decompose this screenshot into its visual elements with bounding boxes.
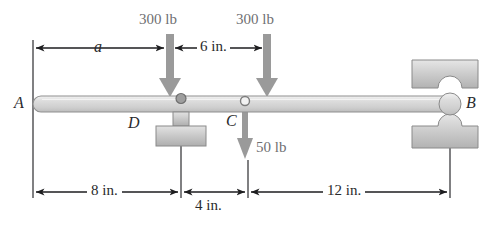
load-arrow-right: [256, 34, 278, 97]
load-label-c: 50 lb: [256, 140, 286, 155]
point-label-A: A: [14, 95, 24, 111]
point-label-D: D: [128, 115, 140, 131]
diagram-canvas: [0, 0, 491, 230]
support-B-lower-block: [412, 114, 478, 148]
load-label-right: 300 lb: [236, 12, 274, 27]
dim-label-6in: 6 in.: [197, 39, 230, 54]
load-arrow-c: [237, 106, 253, 159]
load-arrow-left: [159, 34, 181, 97]
dim-label-4in: 4 in.: [195, 198, 222, 213]
beam-end-ball-B: [439, 93, 461, 115]
dim-label-8in: 8 in.: [87, 183, 122, 198]
pin-joint-D: [176, 94, 186, 104]
point-label-C: C: [226, 113, 237, 129]
extension-lines: [33, 40, 450, 198]
load-label-left: 300 lb: [139, 12, 177, 27]
dim-label-a: a: [94, 39, 102, 55]
beam-free-body-diagram: 300 lb 300 lb 50 lb a 6 in. 8 in. 4 in. …: [0, 0, 491, 230]
dim-label-12in: 12 in.: [323, 183, 365, 198]
support-B-upper-block: [412, 60, 478, 88]
point-label-B: B: [466, 95, 476, 111]
hinge-pin-C: [241, 97, 250, 106]
